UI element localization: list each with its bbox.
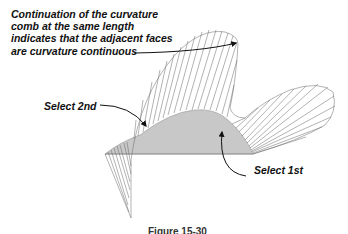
select-first-label: Select 1st <box>254 164 303 176</box>
note-line: Continuation of the curvature <box>11 8 173 20</box>
note-line: comb at the same length <box>11 20 173 32</box>
figure-caption: Figure 15-30 <box>148 226 207 234</box>
continuity-note: Continuation of the curvature comb at th… <box>11 8 173 57</box>
surface-face <box>105 110 253 154</box>
note-line: are curvature continuous <box>11 45 173 57</box>
note-line: indicates that the adjacent faces <box>11 32 173 44</box>
select-second-label: Select 2nd <box>44 100 97 112</box>
